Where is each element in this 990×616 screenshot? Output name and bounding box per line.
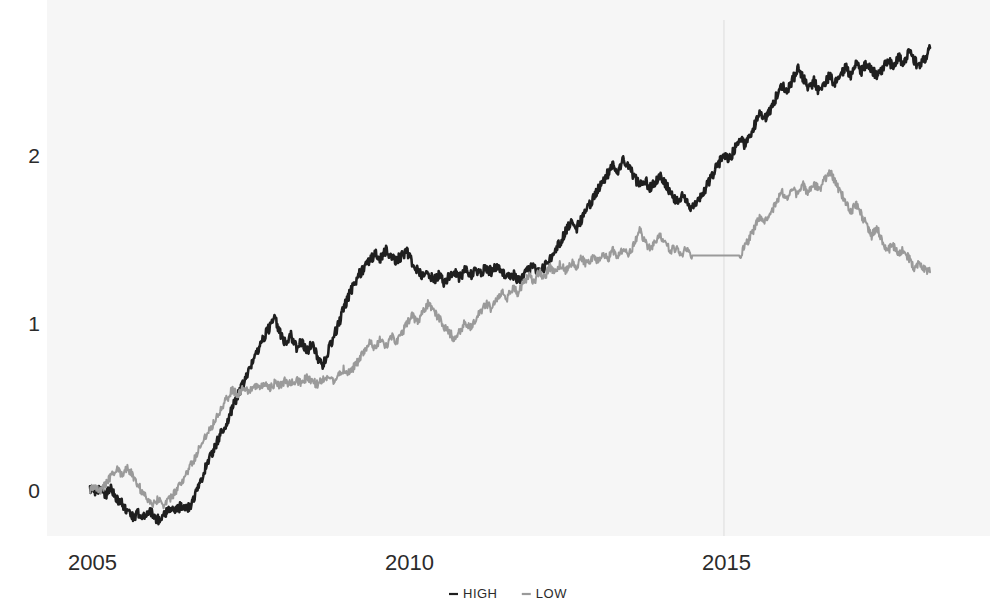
chart-figure: 012 200520102015 HIGHLOW bbox=[0, 0, 990, 616]
series-line-low bbox=[90, 170, 930, 508]
chart-canvas: 012 200520102015 HIGHLOW bbox=[0, 0, 990, 616]
x-tick-label: 2015 bbox=[702, 550, 751, 575]
y-tick-label: 1 bbox=[28, 312, 40, 335]
legend-label-low[interactable]: LOW bbox=[536, 586, 567, 601]
x-tick-label: 2005 bbox=[68, 550, 117, 575]
series-line-high bbox=[90, 45, 930, 524]
y-axis-tick-labels: 012 bbox=[28, 144, 40, 502]
chart-legend: HIGHLOW bbox=[449, 586, 567, 601]
x-axis-tick-labels: 200520102015 bbox=[68, 550, 751, 575]
x-tick-label: 2010 bbox=[385, 550, 434, 575]
legend-label-high[interactable]: HIGH bbox=[463, 586, 498, 601]
y-tick-label: 2 bbox=[28, 144, 40, 167]
y-tick-label: 0 bbox=[28, 479, 40, 502]
series-layer bbox=[90, 45, 930, 524]
